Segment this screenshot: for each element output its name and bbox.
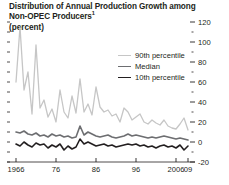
chart-container: Distribution of Annual Production Growth… [0, 0, 229, 185]
svg-text:80: 80 [198, 58, 206, 67]
svg-text:60: 60 [198, 78, 206, 87]
svg-text:1966: 1966 [8, 165, 25, 174]
y-axis-tick-labels: 120100806040200-20 [198, 18, 211, 167]
svg-text:86: 86 [92, 165, 100, 174]
svg-text:96: 96 [132, 165, 140, 174]
svg-text:0: 0 [198, 138, 202, 147]
svg-text:2006: 2006 [168, 165, 185, 174]
y-axis-minor-ticks [7, 22, 194, 162]
svg-text:40: 40 [198, 98, 206, 107]
x-axis-ticks [16, 158, 188, 162]
svg-text:100: 100 [198, 38, 211, 47]
x-axis-tick-labels: 1966768696200609 [8, 165, 193, 174]
chart-plot: 120100806040200-20 1966768696200609 [0, 0, 229, 185]
svg-text:09: 09 [184, 165, 192, 174]
svg-text:76: 76 [52, 165, 60, 174]
chart-series-group [16, 27, 188, 150]
x-axis-group: 1966768696200609 [7, 158, 195, 174]
svg-text:120: 120 [198, 18, 211, 27]
svg-text:-20: -20 [198, 158, 209, 167]
svg-text:20: 20 [198, 118, 206, 127]
